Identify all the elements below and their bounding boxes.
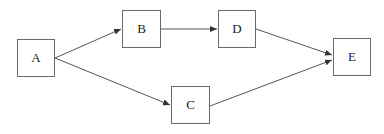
edge-c-e: [210, 60, 332, 106]
node-b: B: [122, 10, 161, 48]
node-e-label: E: [348, 49, 356, 65]
edge-a-b: [55, 29, 121, 58]
node-a: A: [17, 39, 55, 77]
node-a-label: A: [31, 50, 40, 66]
node-c-label: C: [186, 97, 195, 113]
node-b-label: B: [137, 21, 146, 37]
node-c: C: [171, 86, 210, 124]
node-d: D: [218, 10, 256, 48]
edge-a-c: [55, 58, 170, 105]
edge-d-e: [256, 29, 332, 55]
node-e: E: [333, 38, 371, 76]
node-d-label: D: [232, 21, 241, 37]
